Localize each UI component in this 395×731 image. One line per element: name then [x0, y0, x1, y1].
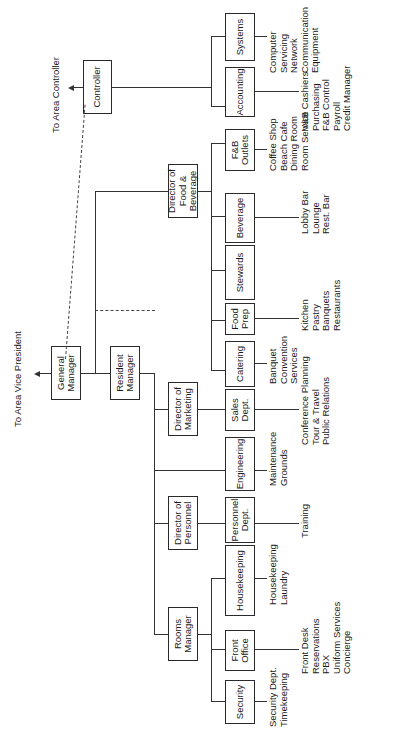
marketing-sub-drop	[198, 409, 225, 410]
dept-housekeeping-box: Housekeeping	[225, 545, 255, 616]
catering-func-line	[255, 363, 267, 364]
housekeeping-func-line	[255, 578, 267, 579]
to-area-vice-president-label: To Area Vice President	[12, 331, 23, 427]
security-functions: Security Dept. Timekeeping	[268, 667, 289, 727]
rooms-manager-box: Rooms Manager	[168, 607, 198, 661]
gm-fnb-bus	[95, 191, 96, 374]
fnb-drop	[95, 191, 168, 192]
engineering-func-line	[255, 470, 267, 471]
front-office-functions: Front Desk Reservations PBX Uniform Serv…	[300, 602, 353, 674]
housekeeping-functions: Housekeeping Laundry	[268, 544, 289, 605]
gm-controller-dotted-line	[65, 105, 86, 359]
dept-security-box: Security	[225, 680, 255, 724]
personnel-functions: Training	[300, 504, 311, 538]
resident-manager-box: Resident Manager	[110, 346, 140, 400]
controller-sub-bus	[211, 36, 212, 107]
catering-functions: Banquet Convention Services	[268, 336, 300, 384]
rooms-sub-drop	[198, 634, 211, 635]
rm-director-bus	[154, 373, 155, 635]
frontoffice-func-line	[255, 649, 299, 650]
systems-drop	[211, 36, 225, 37]
stewards-drop	[211, 270, 225, 271]
director-food-beverage-box: Director of Food & Beverage	[168, 164, 198, 218]
dept-sales-box: Sales Dept.	[225, 389, 255, 431]
gm-up-line	[38, 373, 51, 374]
sales-functions: Conference Planning Tour & Travel Public…	[300, 356, 332, 445]
beverage-drop	[211, 216, 225, 217]
fbo-func-line	[255, 149, 267, 150]
controller-drop	[112, 87, 211, 88]
beverage-func-line	[255, 217, 299, 218]
fbo-drop	[211, 143, 225, 144]
org-chart: To Area Vice President To Area Controlle…	[0, 0, 395, 731]
marketing-drop	[154, 409, 168, 410]
fnb-sub-bus	[211, 143, 212, 371]
systems-func-line	[255, 36, 267, 37]
dept-catering-box: Catering	[225, 341, 255, 387]
fnb-sub-drop	[198, 191, 211, 192]
catering-drop	[211, 370, 225, 371]
systems-functions: Computer Servicing Network Communication…	[268, 0, 321, 73]
dept-food-prep-box: Food Prep	[225, 303, 255, 335]
director-personnel-box: Director of Personnel	[168, 496, 198, 550]
rooms-drop	[154, 634, 168, 635]
personnel-func-line	[255, 523, 299, 524]
foodprep-func-line	[255, 318, 299, 319]
engineering-functions: Maintenance Grounds	[268, 432, 289, 486]
security-drop	[211, 701, 225, 702]
engineering-drop	[154, 470, 225, 471]
dept-fb-outlets-box: F&B Outlets	[225, 129, 255, 171]
dept-stewards-box: Stewards	[225, 245, 255, 300]
accounting-drop	[211, 106, 225, 107]
controller-up-line	[72, 87, 83, 88]
personnel-sub-drop	[198, 523, 225, 524]
security-func-line	[255, 701, 267, 702]
rooms-sub-bus	[211, 578, 212, 702]
frontoffice-drop	[211, 649, 225, 650]
to-area-controller-label: To Area Controller	[50, 57, 61, 133]
director-marketing-box: Director of Marketing	[168, 382, 198, 436]
dept-engineering-box: Engineering	[225, 437, 255, 491]
arrow-up-icon	[68, 85, 74, 91]
accounting-functions: V&B Cashiers Purchasing F&B Control Payr…	[300, 66, 353, 131]
rm-drop	[140, 373, 154, 374]
dept-front-office-box: Front Office	[225, 630, 255, 671]
housekeeping-drop	[211, 578, 225, 579]
dept-beverage-box: Beverage	[225, 193, 255, 243]
food-prep-functions: Kitchen Pastry Banquets Restaurants	[300, 280, 342, 331]
foodprep-drop	[211, 320, 225, 321]
dept-personnel-box: Personnel Dept.	[225, 497, 255, 543]
accounting-func-line	[255, 91, 299, 92]
dept-systems-box: Systems	[225, 13, 255, 61]
rm-fnb-dotted	[95, 310, 155, 311]
arrow-up-icon	[34, 371, 40, 377]
personnel-drop	[154, 523, 168, 524]
beverage-functions: Lobby Bar Lounge Rest. Bar	[300, 191, 332, 234]
controller-box: Controller	[83, 60, 112, 114]
dept-accounting-box: Accounting	[225, 67, 255, 117]
sales-func-line	[255, 409, 299, 410]
